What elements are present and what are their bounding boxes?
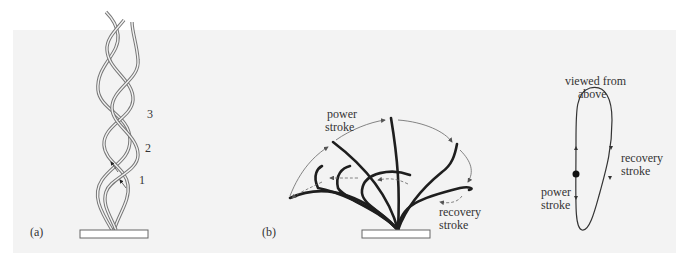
recovery-stroke-label-line1: recovery bbox=[439, 205, 481, 219]
panel-c-recovery-line2: stroke bbox=[621, 164, 650, 178]
label-1: 1 bbox=[139, 173, 145, 187]
panel-c-power-line1: power bbox=[541, 185, 571, 199]
viewed-from-above-line2: above bbox=[578, 87, 607, 101]
panel-c-trajectory bbox=[576, 87, 612, 230]
label-2: 2 bbox=[145, 141, 151, 155]
panel-a-helix bbox=[97, 12, 138, 230]
panel-c-power-line2: stroke bbox=[541, 198, 570, 212]
panel-a-base bbox=[80, 230, 148, 238]
panel-b-label: (b) bbox=[262, 225, 276, 239]
panel-c-recovery-line1: recovery bbox=[621, 151, 663, 165]
cilia-figure: 1 2 3 (a) power stroke recovery stroke (… bbox=[0, 0, 694, 267]
viewed-from-above-line1: viewed from bbox=[565, 74, 627, 88]
cilium-base-dot bbox=[573, 171, 580, 178]
label-3: 3 bbox=[147, 107, 153, 121]
power-stroke-label-line1: power bbox=[327, 107, 357, 121]
power-stroke-label-line2: stroke bbox=[325, 120, 354, 134]
panel-a-label: (a) bbox=[30, 225, 43, 239]
panel-b-base bbox=[362, 230, 430, 238]
recovery-stroke-label-line2: stroke bbox=[439, 218, 468, 232]
